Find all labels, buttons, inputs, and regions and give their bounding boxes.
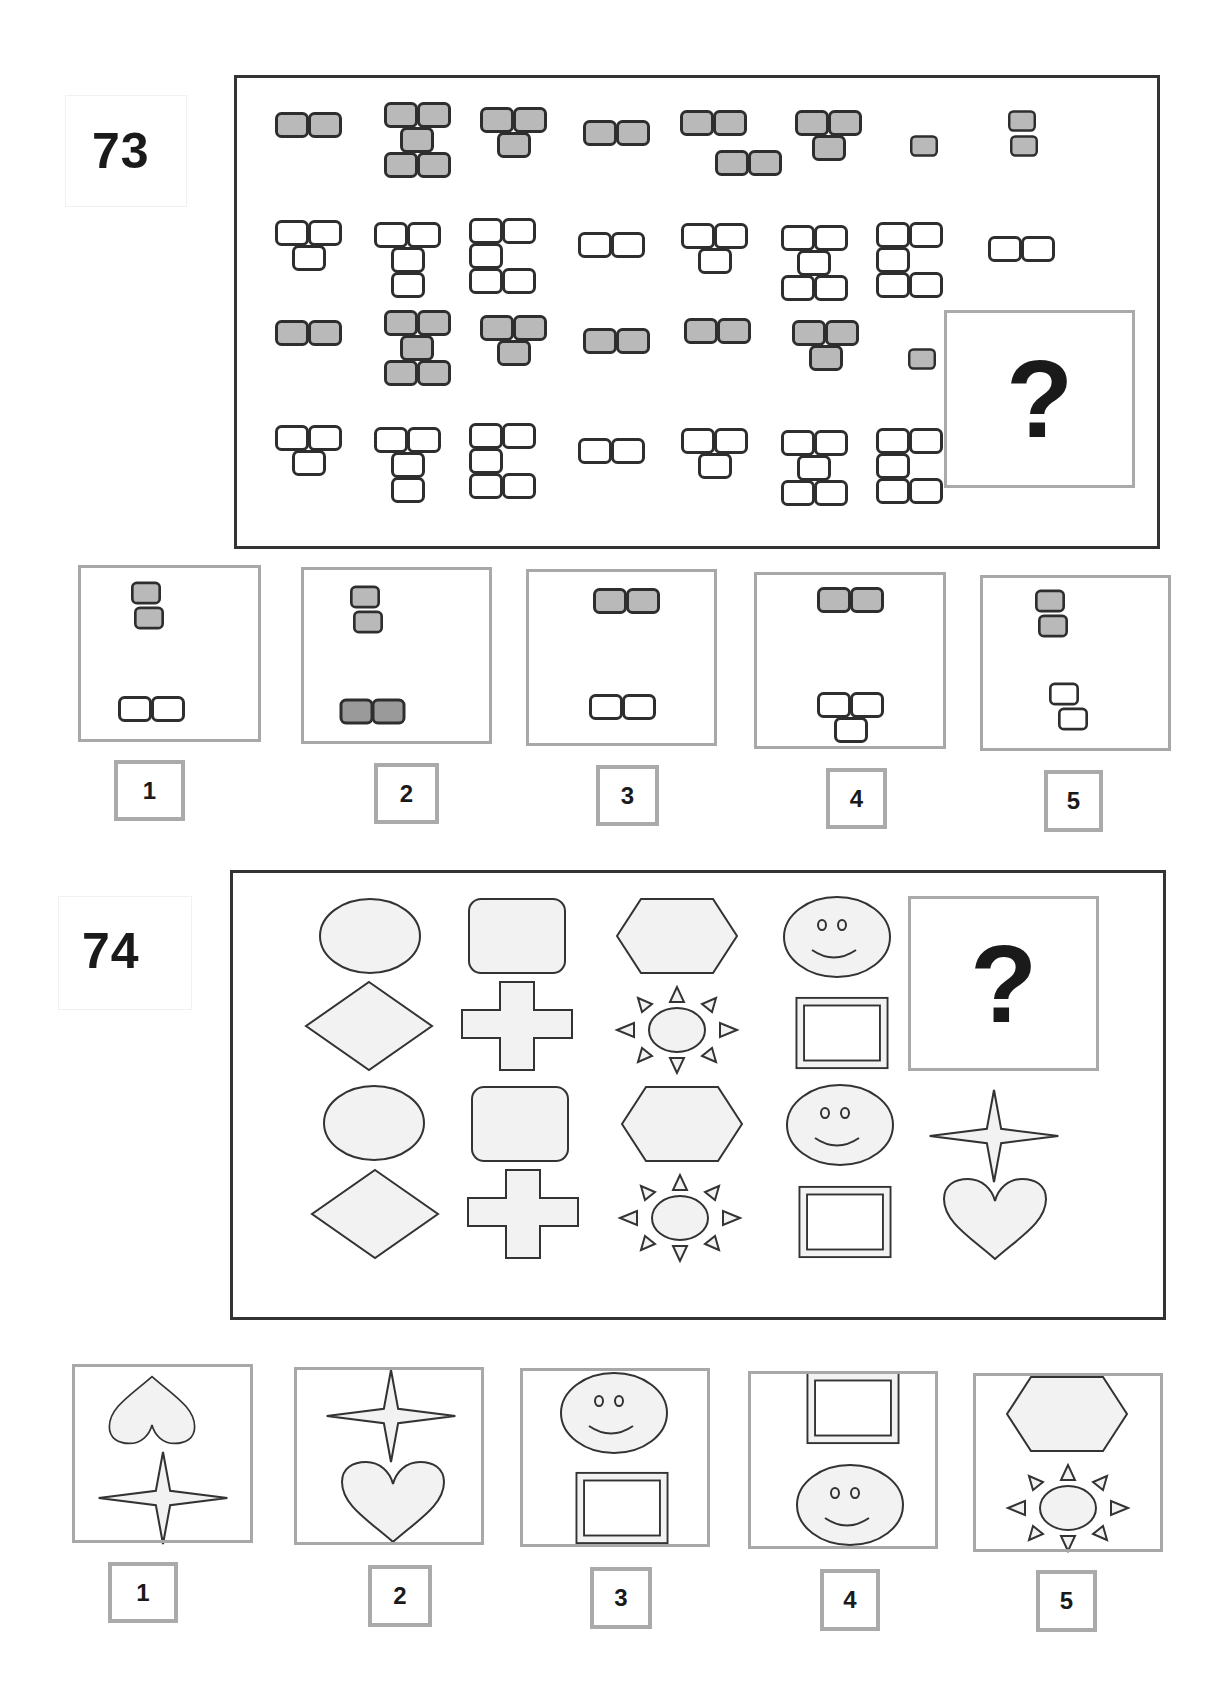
sun-shape [617, 987, 737, 1073]
puzzle-74-option-label-2[interactable]: 2 [368, 1565, 432, 1627]
cross-shape [468, 1170, 578, 1258]
heart-shape [944, 1179, 1046, 1259]
hexagon-shape [617, 899, 737, 973]
puzzle-74-option-3[interactable] [520, 1368, 710, 1547]
framed-square-shape [799, 1187, 890, 1257]
smiley-face-shape [787, 1085, 893, 1165]
framed-square-shape [796, 998, 887, 1068]
puzzle-74-option-label-1[interactable]: 1 [108, 1562, 178, 1623]
rounded-rectangle-shape [472, 1087, 568, 1161]
cross-shape [462, 982, 572, 1070]
sun-shape [620, 1175, 740, 1261]
puzzle-74-option-label-3[interactable]: 3 [590, 1567, 652, 1629]
diamond-shape [306, 982, 432, 1070]
puzzle-74-option-label-5[interactable]: 5 [1036, 1570, 1097, 1632]
four-point-star-shape [930, 1090, 1059, 1182]
hexagon-shape [622, 1087, 742, 1161]
diamond-shape [312, 1170, 438, 1258]
puzzle-74-option-4[interactable] [748, 1371, 938, 1549]
puzzle-74-option-5[interactable] [973, 1373, 1163, 1552]
puzzle-74-option-1[interactable] [72, 1364, 253, 1543]
rounded-rectangle-shape [469, 899, 565, 973]
smiley-face-shape [784, 897, 890, 977]
question-mark: ? [970, 929, 1037, 1039]
puzzle-74-option-label-4[interactable]: 4 [820, 1569, 880, 1631]
circle-shape [324, 1086, 424, 1160]
puzzle-74-option-2[interactable] [294, 1367, 484, 1545]
circle-shape [320, 899, 420, 973]
puzzle-74-missing-cell: ? [908, 896, 1099, 1071]
